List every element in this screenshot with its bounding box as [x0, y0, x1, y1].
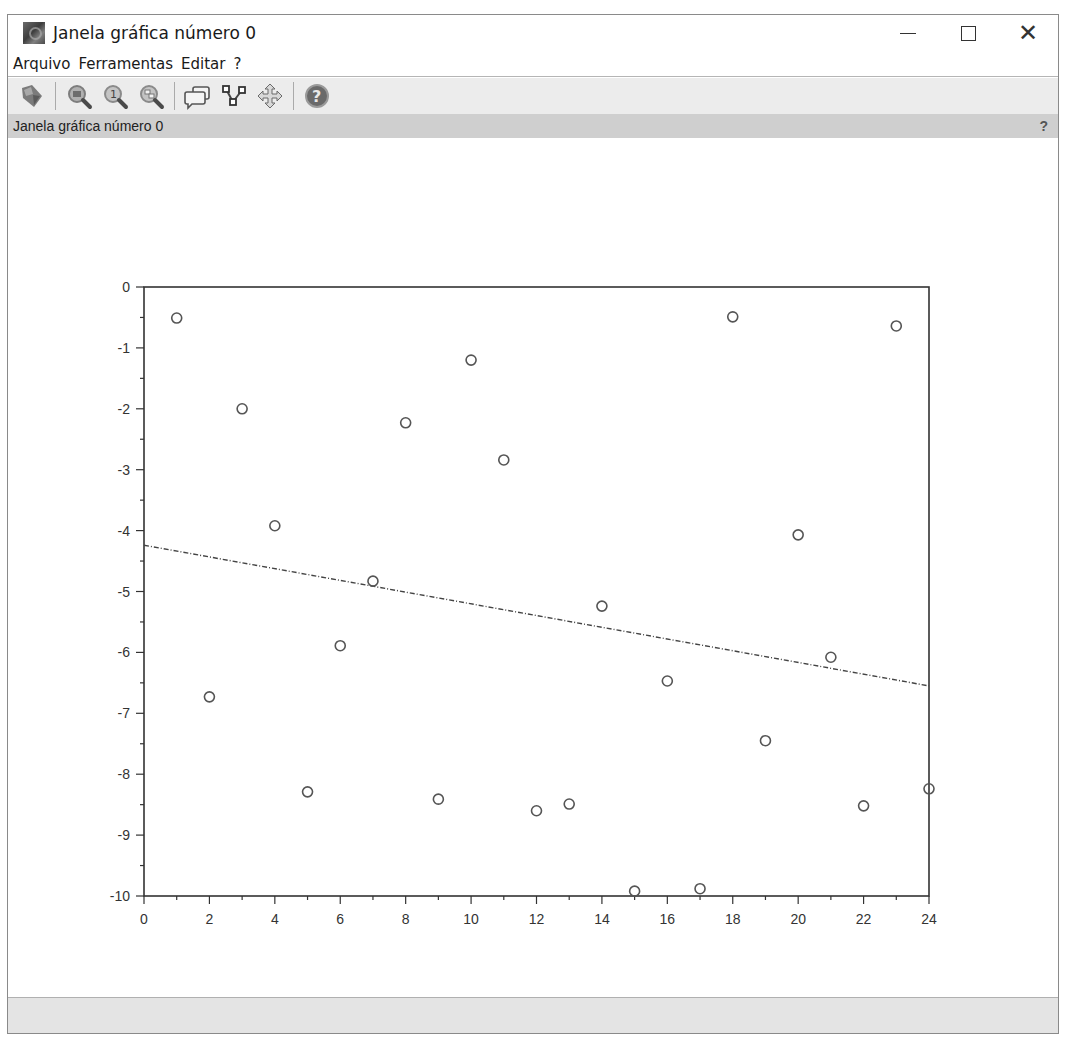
data-point [172, 313, 182, 323]
x-tick-label: 20 [790, 911, 806, 927]
status-bar [8, 997, 1058, 1033]
data-point [499, 455, 509, 465]
x-tick-label: 0 [140, 911, 148, 927]
data-point [891, 321, 901, 331]
x-tick-label: 8 [402, 911, 410, 927]
data-point [564, 799, 574, 809]
data-point [466, 355, 476, 365]
y-tick-label: -10 [110, 888, 130, 904]
x-tick-label: 2 [206, 911, 214, 927]
graphic-window: Janela gráfica número 0 ✕ Arquivo Ferram… [7, 14, 1059, 1034]
data-point [401, 418, 411, 428]
trend-line-group [144, 545, 929, 686]
x-tick-label: 10 [463, 911, 479, 927]
y-tick-label: -6 [118, 644, 131, 660]
x-tick-label: 6 [336, 911, 344, 927]
y-tick-label: -5 [118, 584, 131, 600]
y-tick-label: -1 [118, 340, 131, 356]
data-point [695, 884, 705, 894]
axes: 0246810121416182022240-1-2-3-4-5-6-7-8-9… [110, 279, 937, 927]
plot-frame [144, 287, 929, 896]
y-tick-label: 0 [122, 279, 130, 295]
scatter-plot: 0246810121416182022240-1-2-3-4-5-6-7-8-9… [1, 1, 1068, 1038]
data-point [335, 641, 345, 651]
y-tick-label: -4 [118, 523, 131, 539]
y-tick-label: -2 [118, 401, 131, 417]
x-tick-label: 4 [271, 911, 279, 927]
data-point [433, 794, 443, 804]
x-tick-label: 16 [660, 911, 676, 927]
data-point [630, 886, 640, 896]
x-tick-label: 14 [594, 911, 610, 927]
y-tick-label: -8 [118, 766, 131, 782]
data-points [172, 312, 934, 896]
x-tick-label: 22 [856, 911, 872, 927]
data-point [859, 801, 869, 811]
y-tick-label: -3 [118, 462, 131, 478]
trend-line [144, 545, 929, 686]
data-point [204, 692, 214, 702]
data-point [793, 530, 803, 540]
y-tick-label: -9 [118, 827, 131, 843]
x-tick-label: 24 [921, 911, 937, 927]
data-point [532, 806, 542, 816]
x-tick-label: 18 [725, 911, 741, 927]
data-point [826, 652, 836, 662]
data-point [270, 521, 280, 531]
data-point [237, 404, 247, 414]
data-point [368, 576, 378, 586]
data-point [597, 601, 607, 611]
y-tick-label: -7 [118, 705, 131, 721]
data-point [728, 312, 738, 322]
data-point [662, 676, 672, 686]
data-point [760, 736, 770, 746]
plot-canvas[interactable]: 0246810121416182022240-1-2-3-4-5-6-7-8-9… [8, 138, 1058, 998]
x-tick-label: 12 [529, 911, 545, 927]
data-point [303, 787, 313, 797]
